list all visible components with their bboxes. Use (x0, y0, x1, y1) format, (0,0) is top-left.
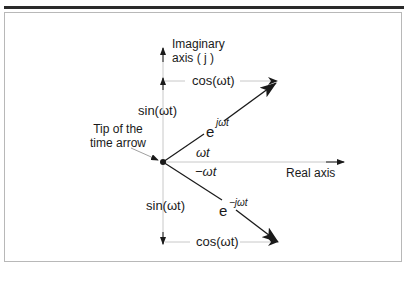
origin-dot (160, 159, 166, 165)
lower-cos-label: cos(ωt) (196, 235, 239, 249)
lower-sin-label: sin(ωt) (146, 199, 185, 213)
lower-exp-sup: −jωt (229, 197, 248, 208)
lower-exp-base: e (219, 204, 227, 218)
upper-exp-base: e (206, 125, 214, 139)
tip-label-line1: Tip of the (78, 122, 158, 136)
real-axis-label: Real axis (286, 166, 335, 180)
upper-cos-label: cos(ωt) (192, 74, 235, 88)
angle-label-lower: −ωt (195, 165, 216, 179)
angle-label-upper: ωt (196, 146, 210, 160)
tip-label-line2: time arrow (78, 136, 158, 150)
imaginary-axis-label-line2: axis ( j ) (172, 51, 214, 65)
imaginary-axis-label-line1: Imaginary (172, 37, 225, 51)
upper-sin-label: sin(ωt) (138, 104, 177, 118)
upper-exp-sup: jωt (216, 117, 229, 128)
